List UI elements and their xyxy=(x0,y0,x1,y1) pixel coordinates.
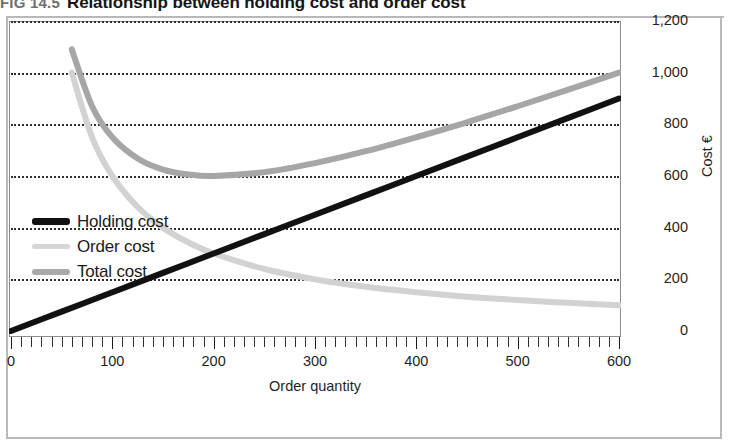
x-axis-minor-tick xyxy=(497,337,498,347)
x-axis-minor-tick xyxy=(477,337,478,347)
x-axis-minor-tick xyxy=(305,337,306,347)
series-line-total-cost xyxy=(72,49,619,176)
x-axis-minor-tick xyxy=(426,337,427,347)
x-axis-title: Order quantity xyxy=(9,378,621,394)
x-axis-minor-tick xyxy=(548,337,549,347)
page-title: Relationship between holding cost and or… xyxy=(67,0,466,12)
x-axis-minor-tick xyxy=(538,337,539,347)
x-axis-major-tick xyxy=(416,337,417,349)
x-axis-major-tick xyxy=(11,337,12,349)
x-axis-tick-label: 200 xyxy=(184,353,244,369)
x-axis-minor-tick xyxy=(133,337,134,347)
x-axis-tick-label: 500 xyxy=(488,353,548,369)
x-axis-minor-tick xyxy=(234,337,235,347)
legend-label: Holding cost xyxy=(77,212,168,232)
x-axis-minor-tick xyxy=(62,337,63,347)
x-axis-minor-tick xyxy=(325,337,326,347)
x-axis-minor-tick xyxy=(92,337,93,347)
x-axis-minor-tick xyxy=(224,337,225,347)
x-axis-tick-label: 0 xyxy=(0,353,41,369)
legend-item: Order cost xyxy=(32,234,212,259)
x-axis-major-tick xyxy=(518,337,519,349)
y-axis-tick-label: 400 xyxy=(636,220,688,234)
x-axis-minor-tick xyxy=(437,337,438,347)
x-axis-minor-tick xyxy=(345,337,346,347)
x-axis-minor-tick xyxy=(21,337,22,347)
y-axis-tick-label: 200 xyxy=(636,271,688,285)
x-axis-minor-tick xyxy=(122,337,123,347)
figure-number: FIG 14.5 xyxy=(0,0,60,11)
x-axis-minor-tick xyxy=(173,337,174,347)
x-axis-minor-tick xyxy=(244,337,245,347)
x-axis-minor-tick xyxy=(508,337,509,347)
chart-curves xyxy=(9,21,621,337)
x-axis-minor-tick xyxy=(558,337,559,347)
legend-label: Order cost xyxy=(77,237,154,257)
legend-swatch-total-cost xyxy=(32,269,70,275)
x-axis-major-tick xyxy=(214,337,215,349)
x-axis-tick-label: 300 xyxy=(285,353,345,369)
x-axis-ticks xyxy=(9,337,621,350)
y-axis-tick-label: 1,200 xyxy=(636,13,688,27)
x-axis-minor-tick xyxy=(295,337,296,347)
x-axis-minor-tick xyxy=(406,337,407,347)
x-axis-minor-tick xyxy=(163,337,164,347)
x-axis-minor-tick xyxy=(335,337,336,347)
x-axis-minor-tick xyxy=(609,337,610,347)
legend-item: Holding cost xyxy=(32,209,212,234)
legend-label: Total cost xyxy=(77,262,147,282)
y-axis-tick-label: 0 xyxy=(636,323,688,337)
figure-title: FIG 14.5Relationship between holding cos… xyxy=(0,0,730,15)
x-axis-major-tick xyxy=(315,337,316,349)
y-axis-tick-label: 800 xyxy=(636,116,688,130)
x-axis-minor-tick xyxy=(447,337,448,347)
x-axis-minor-tick xyxy=(528,337,529,347)
x-axis-minor-tick xyxy=(396,337,397,347)
x-axis-minor-tick xyxy=(356,337,357,347)
y-axis-title: Cost € xyxy=(699,121,715,191)
x-axis-minor-tick xyxy=(41,337,42,347)
x-axis-minor-tick xyxy=(254,337,255,347)
x-axis-major-tick xyxy=(112,337,113,349)
x-axis-minor-tick xyxy=(274,337,275,347)
chart-legend: Holding costOrder costTotal cost xyxy=(32,209,212,284)
y-axis-tick-label: 1,000 xyxy=(636,65,688,79)
x-axis-tick-label: 600 xyxy=(589,353,649,369)
x-axis-minor-tick xyxy=(285,337,286,347)
y-axis-tick-label: 600 xyxy=(636,168,688,182)
x-axis-minor-tick xyxy=(589,337,590,347)
x-axis-minor-tick xyxy=(599,337,600,347)
x-axis-minor-tick xyxy=(376,337,377,347)
x-axis-minor-tick xyxy=(153,337,154,347)
x-axis-minor-tick xyxy=(204,337,205,347)
x-axis-minor-tick xyxy=(193,337,194,347)
legend-swatch-holding-cost xyxy=(32,218,70,225)
x-axis-minor-tick xyxy=(578,337,579,347)
x-axis-minor-tick xyxy=(143,337,144,347)
x-axis-minor-tick xyxy=(487,337,488,347)
x-axis-minor-tick xyxy=(264,337,265,347)
x-axis-tick-label: 400 xyxy=(386,353,446,369)
x-axis-minor-tick xyxy=(102,337,103,347)
x-axis-minor-tick xyxy=(386,337,387,347)
x-axis-minor-tick xyxy=(82,337,83,347)
legend-item: Total cost xyxy=(32,259,212,284)
x-axis-minor-tick xyxy=(52,337,53,347)
x-axis-minor-tick xyxy=(568,337,569,347)
x-axis-major-tick xyxy=(619,337,620,349)
x-axis-minor-tick xyxy=(31,337,32,347)
x-axis-minor-tick xyxy=(467,337,468,347)
x-axis-minor-tick xyxy=(457,337,458,347)
x-axis-minor-tick xyxy=(72,337,73,347)
x-axis-minor-tick xyxy=(183,337,184,347)
legend-swatch-order-cost xyxy=(32,244,70,249)
x-axis-tick-label: 100 xyxy=(82,353,142,369)
x-axis-minor-tick xyxy=(366,337,367,347)
